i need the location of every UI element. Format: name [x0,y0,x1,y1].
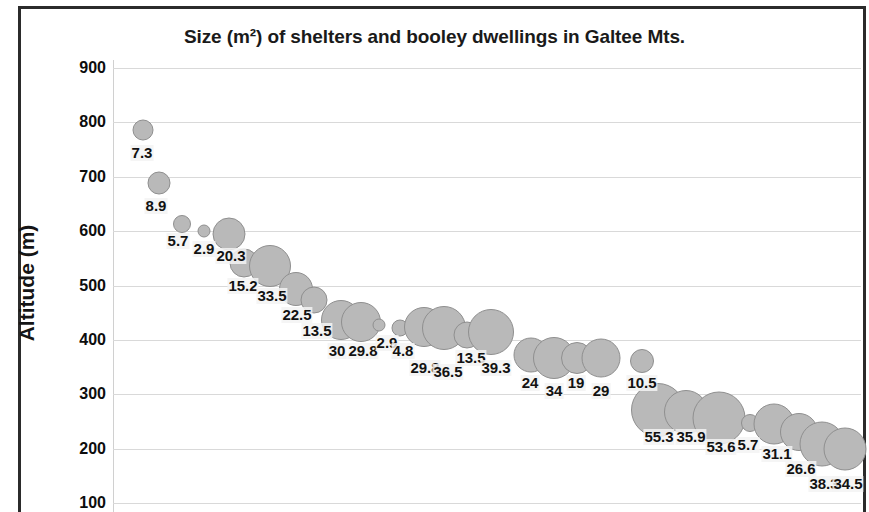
bubble-point [148,172,171,195]
y-axis-tick-label: 900 [46,59,106,77]
bubble-data-label: 29 [592,383,611,399]
bubble-data-label: 20.3 [215,248,246,264]
gridline [113,122,861,123]
bubble-data-label: 5.7 [167,233,190,249]
y-axis-tick-labels: 900800700600500400300200100 [40,60,106,512]
bubble-data-label: 30 [328,343,347,359]
bubble-point [173,215,191,233]
y-axis-tick-label: 400 [46,331,106,349]
bubble-data-label: 22.5 [281,307,312,323]
bubble-data-label: 15.2 [227,278,258,294]
chart-title: Size (m²) of shelters and booley dwellin… [0,26,869,48]
bubble-data-label: 29.8 [347,343,378,359]
y-axis-tick-label: 500 [46,277,106,295]
bubble-point [198,225,211,238]
page-border-right [863,6,866,512]
plot-area: 7.38.95.72.920.315.233.522.513.53029.82.… [113,60,861,512]
bubble-data-label: 7.3 [131,145,154,161]
y-axis-tick-label: 800 [46,113,106,131]
y-axis-tick-label: 600 [46,222,106,240]
bubble-point [373,319,386,332]
bubble-data-label: 34 [545,383,564,399]
bubble-point [630,349,654,373]
bubble-point [213,218,246,251]
gridline [113,177,861,178]
bubble-data-label: 8.9 [145,198,168,214]
bubble-data-label: 35.9 [675,429,706,445]
bubble-data-label: 34.5 [832,476,863,492]
bubble-point [824,428,867,471]
gridline [113,503,861,504]
bubble-data-label: 55.3 [643,429,674,445]
bubble-data-label: 39.3 [480,360,511,376]
gridline [113,286,861,287]
bubble-data-label: 24 [521,375,540,391]
bubble-data-label: 36.5 [432,364,463,380]
bubble-data-label: 13.5 [301,323,332,339]
y-axis-tick-label: 700 [46,168,106,186]
bubble-data-label: 33.5 [256,288,287,304]
bubble-data-label: 10.5 [626,375,657,391]
bubble-data-label: 5.7 [737,437,760,453]
bubble-point [582,339,621,378]
bubble-data-label: 2.9 [193,241,216,257]
page-border-top [18,6,866,9]
y-axis-tick-label: 300 [46,385,106,403]
y-axis-title: Altitude (m) [15,173,39,393]
chart-container: Size (m²) of shelters and booley dwellin… [0,0,869,512]
y-axis-tick-label: 100 [46,494,106,512]
gridline [113,394,861,395]
bubble-data-label: 4.8 [392,343,415,359]
bubble-point [133,120,154,141]
gridline [113,68,861,69]
bubble-data-label: 19 [567,375,586,391]
bubble-data-label: 53.6 [705,439,736,455]
y-axis-tick-label: 200 [46,440,106,458]
